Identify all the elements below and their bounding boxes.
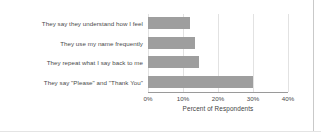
bar-row xyxy=(148,73,288,93)
x-tick-label-40: 40% xyxy=(282,95,295,102)
x-axis-baseline xyxy=(148,92,288,93)
category-label-2: They repeat what I say back to me xyxy=(47,58,143,67)
category-label-group: They say they understand how I feel They… xyxy=(0,14,146,92)
category-label-row: They say "Please" and "Thank You" xyxy=(0,73,146,93)
bar-2[interactable] xyxy=(148,56,199,68)
bar-1[interactable] xyxy=(148,37,195,49)
bar-row xyxy=(148,14,288,34)
plot-area xyxy=(148,14,288,92)
x-tick-label-30: 30% xyxy=(247,95,260,102)
bar-0[interactable] xyxy=(148,17,190,29)
gridline-40 xyxy=(288,14,289,92)
page-edge-right-border xyxy=(313,0,314,132)
category-label-3: They say "Please" and "Thank You" xyxy=(44,78,143,87)
category-label-row: They say they understand how I feel xyxy=(0,14,146,34)
x-tick-label-20: 20% xyxy=(212,95,225,102)
category-label-1: They use my name frequently xyxy=(60,39,143,48)
bar-row xyxy=(148,34,288,54)
category-label-row: They use my name frequently xyxy=(0,34,146,54)
page-edge-bottom-border xyxy=(0,131,321,132)
category-label-0: They say they understand how I feel xyxy=(42,19,143,28)
bar-row xyxy=(148,53,288,73)
bar-chart-figure: They say they understand how I feel They… xyxy=(0,0,321,132)
x-tick-label-0: 0% xyxy=(143,95,152,102)
category-label-row: They repeat what I say back to me xyxy=(0,53,146,73)
bar-3[interactable] xyxy=(148,76,253,88)
x-axis-title: Percent of Respondents xyxy=(148,105,288,112)
x-tick-label-10: 10% xyxy=(177,95,190,102)
